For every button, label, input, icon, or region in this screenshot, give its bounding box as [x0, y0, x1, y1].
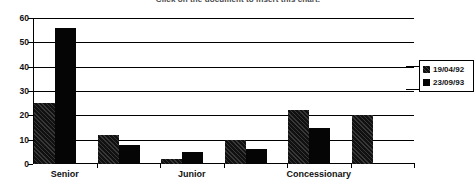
- bar: [352, 115, 373, 164]
- bar: [182, 152, 203, 164]
- legend-item[interactable]: 23/09/93: [423, 76, 471, 89]
- y-axis-labels: 60 50 40 30 20 10 0: [0, 18, 29, 164]
- legend-swatch-icon: [423, 66, 430, 73]
- bar: [309, 128, 330, 165]
- bar-series-container: [33, 18, 414, 164]
- x-axis-labels: SeniorJuniorConcessionary: [0, 168, 476, 182]
- legend-item-label: 19/04/92: [433, 65, 464, 74]
- plot-area: [33, 18, 414, 164]
- legend-leader-line: [406, 89, 419, 90]
- x-axis-category-label: Junior: [146, 168, 238, 180]
- bar: [119, 145, 140, 164]
- chart-title: Click on the document to insert this cha…: [0, 0, 476, 4]
- legend-item[interactable]: 19/04/92: [423, 63, 471, 76]
- bar: [225, 140, 246, 164]
- bar: [288, 110, 309, 164]
- legend-leader-line: [406, 66, 419, 67]
- bar: [246, 149, 267, 164]
- x-axis-category-label: Concessionary: [273, 168, 365, 180]
- x-axis-category-label: Senior: [19, 168, 111, 180]
- chart-legend[interactable]: 19/04/92 23/09/93: [419, 60, 474, 92]
- bar-chart: Click on the document to insert this cha…: [0, 0, 476, 185]
- bar: [34, 103, 55, 164]
- bar: [98, 135, 119, 164]
- legend-item-label: 23/09/93: [433, 78, 464, 87]
- bar: [55, 28, 76, 164]
- legend-swatch-icon: [423, 79, 430, 86]
